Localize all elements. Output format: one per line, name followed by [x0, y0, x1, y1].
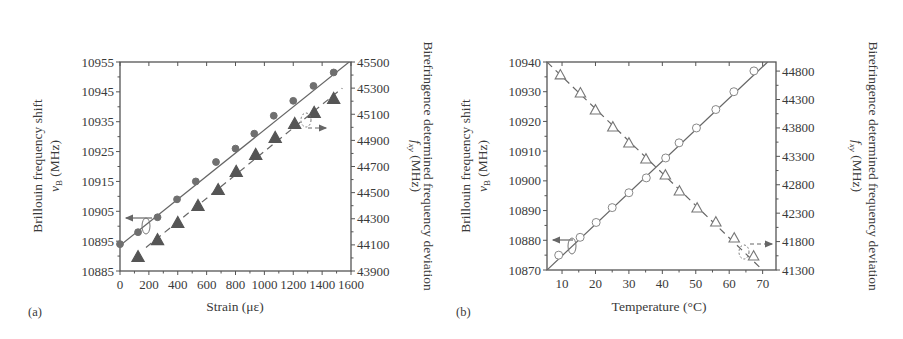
y-tick-label: 10910 — [509, 144, 542, 159]
y2-tick-label: 44900 — [357, 133, 390, 148]
data-point-circle — [555, 251, 563, 259]
y2-tick-label: 44800 — [782, 64, 815, 79]
data-point-circle — [154, 214, 161, 221]
svg-text:fxy (MHz): fxy (MHz) — [848, 140, 865, 192]
x-tick-label: 40 — [656, 276, 669, 291]
data-point-circle — [608, 204, 616, 212]
y2-tick-label: 44500 — [357, 185, 390, 200]
y2-tick-label: 44300 — [782, 92, 815, 107]
left-series-indicator — [142, 218, 150, 234]
data-point-circle — [330, 69, 337, 76]
y2-axis-title-b: Birefringence determined frequency devia… — [866, 41, 881, 291]
x-tick-label: 400 — [168, 277, 188, 292]
y-tick-label: 10945 — [82, 84, 115, 99]
y-tick-label: 10900 — [509, 173, 542, 188]
data-point-triangle — [674, 186, 684, 195]
y-tick-label: 10955 — [82, 55, 115, 70]
plot-area-b: 1020304050607010870108801089010900109101… — [509, 55, 815, 292]
svg-text:vB (MHz): vB (MHz) — [47, 140, 64, 192]
y2-tick-label: 45100 — [357, 107, 390, 122]
y2-tick-label: 44100 — [357, 237, 390, 252]
x-axis-title-b: Temperature (°C) — [612, 299, 707, 314]
x-tick-label: 800 — [226, 277, 246, 292]
data-point-circle — [642, 174, 650, 182]
x-tick-label: 600 — [197, 277, 217, 292]
y-tick-label: 10940 — [509, 55, 542, 70]
y2-tick-label: 42800 — [782, 177, 815, 192]
data-point-circle — [290, 97, 297, 104]
data-point-triangle — [624, 138, 634, 147]
data-point-triangle — [641, 154, 651, 163]
data-point-circle — [213, 159, 220, 166]
x-tick-label: 20 — [589, 276, 602, 291]
y-axis-title-b: Brillouin frequency shift vB (MHz) — [458, 99, 492, 233]
svg-text:vB (MHz): vB (MHz) — [475, 140, 492, 192]
x-tick-label: 10 — [556, 276, 569, 291]
panel-label-b: (b) — [456, 305, 471, 319]
x-tick-label: 0 — [117, 277, 124, 292]
x-tick-label: 1600 — [338, 277, 364, 292]
data-point-triangle — [575, 88, 585, 97]
data-point-circle — [592, 218, 600, 226]
y-tick-label: 10905 — [82, 204, 115, 219]
x-tick-label: 1400 — [309, 277, 335, 292]
y2-tick-label: 43300 — [782, 149, 815, 164]
data-point-triangle — [250, 148, 262, 159]
y2-tick-label: 45300 — [357, 81, 390, 96]
figure-canvas: 0200400600800100012001400160010885108951… — [0, 0, 903, 339]
y-tick-label: 10925 — [82, 144, 115, 159]
right-series-indicator — [301, 113, 311, 127]
y-tick-label: 10890 — [509, 203, 542, 218]
y-tick-label: 10880 — [509, 233, 542, 248]
y2-tick-label: 44700 — [357, 159, 390, 174]
y2-tick-label: 45500 — [357, 55, 390, 70]
y2-tick-label: 41800 — [782, 234, 815, 249]
y-tick-label: 10930 — [509, 84, 542, 99]
data-point-triangle — [608, 122, 618, 131]
data-point-triangle — [660, 170, 670, 179]
x-tick-label: 200 — [139, 277, 159, 292]
svg-text:Brillouin frequency shift: Brillouin frequency shift — [30, 99, 45, 233]
right-series-indicator — [739, 245, 749, 259]
data-point-triangle — [269, 131, 281, 142]
data-point-triangle — [748, 251, 758, 260]
x-tick-label: 1200 — [280, 277, 306, 292]
y-tick-label: 10920 — [509, 114, 542, 129]
data-point-circle — [750, 67, 758, 75]
chart-panel-a: 0200400600800100012001400160010885108951… — [28, 41, 436, 319]
plot-area-a: 0200400600800100012001400160010885108951… — [82, 55, 390, 293]
data-point-circle — [232, 145, 239, 152]
y-tick-label: 10935 — [82, 114, 115, 129]
data-point-circle — [251, 130, 258, 137]
x-tick-label: 1000 — [251, 277, 277, 292]
data-point-circle — [174, 196, 181, 203]
svg-text:Brillouin frequency shift: Brillouin frequency shift — [458, 99, 473, 233]
data-point-circle — [625, 189, 633, 197]
data-point-triangle — [172, 216, 184, 227]
x-tick-label: 70 — [756, 276, 769, 291]
panel-label-a: (a) — [28, 305, 42, 319]
x-tick-label: 50 — [689, 276, 702, 291]
y2-tick-label: 44300 — [357, 211, 390, 226]
y2-tick-label: 43900 — [357, 264, 390, 279]
y-tick-label: 10885 — [82, 264, 115, 279]
data-point-circle — [730, 88, 738, 96]
data-point-circle — [692, 124, 700, 132]
y-tick-label: 10895 — [82, 234, 115, 249]
data-point-circle — [192, 178, 199, 185]
data-point-triangle — [729, 233, 739, 242]
data-point-triangle — [151, 234, 163, 245]
x-tick-label: 30 — [622, 276, 635, 291]
data-point-circle — [576, 233, 584, 241]
y-tick-label: 10915 — [82, 174, 115, 189]
data-point-circle — [662, 154, 670, 162]
data-point-circle — [310, 82, 317, 89]
data-point-triangle — [132, 251, 144, 262]
y-axis-title-a: Brillouin frequency shift vB (MHz) — [30, 99, 64, 233]
y2-axis-symbol-b: fxy (MHz) — [848, 140, 865, 192]
y-tick-label: 10870 — [509, 263, 542, 278]
data-point-circle — [675, 139, 683, 147]
x-tick-label: 60 — [723, 276, 736, 291]
data-point-circle — [135, 229, 142, 236]
data-point-circle — [117, 241, 124, 248]
